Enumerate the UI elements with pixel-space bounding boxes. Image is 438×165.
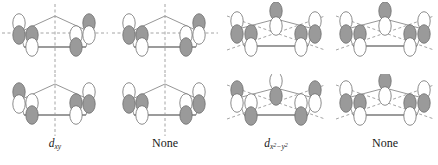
p-orbital-left-inner-1-bottom [26, 94, 38, 125]
figure-column-3: dx2−y2 [221, 0, 331, 165]
p-orbital-right-inner-3-top [295, 25, 307, 57]
column-4-caption: None [330, 136, 438, 150]
orbital-diagram-1-top [0, 2, 110, 74]
panel-2-top [110, 2, 220, 74]
figure-column-1: dxy [0, 0, 110, 165]
p-orbital-right-outer-1-top [83, 14, 95, 45]
panel-3-top [221, 2, 331, 74]
figure-column-4: None [330, 0, 438, 165]
p-orbital-apex-3-bottom [270, 74, 282, 105]
column-2-caption: None [110, 136, 220, 150]
p-orbital-left-outer-2-top [123, 14, 135, 45]
p-orbital-right-outer-4-top [418, 12, 430, 44]
p-orbital-left-outer-4-top [340, 12, 352, 44]
p-orbital-left-outer-3-bottom [231, 81, 243, 113]
p-orbital-right-outer-4-bottom [418, 81, 430, 113]
p-orbital-left-inner-2-bottom [136, 94, 148, 125]
p-orbital-left-inner-4-top [354, 25, 366, 57]
p-orbital-left-inner-3-top [245, 25, 257, 57]
p-orbital-right-inner-1-bottom [70, 94, 82, 125]
p-orbital-left-inner-3-bottom [245, 94, 257, 126]
p-orbital-right-outer-2-top [193, 14, 205, 45]
p-orbital-left-outer-1-top [13, 14, 25, 45]
p-orbital-apex-3-top [270, 2, 282, 35]
p-orbital-right-inner-1-top [70, 26, 82, 57]
p-orbital-right-inner-3-bottom [295, 94, 307, 126]
p-orbital-right-inner-2-bottom [180, 94, 192, 125]
p-orbital-right-inner-4-top [404, 25, 416, 57]
column-1-caption: dxy [0, 136, 110, 154]
orbital-diagram-3-top [221, 2, 331, 74]
p-orbital-left-outer-1-bottom [13, 83, 25, 114]
p-orbital-right-outer-1-bottom [83, 83, 95, 114]
p-orbital-left-inner-2-top [136, 26, 148, 57]
p-orbital-right-inner-2-top [180, 26, 192, 57]
p-orbital-right-outer-3-bottom [309, 81, 321, 113]
orbital-symmetry-figure: dxy [0, 0, 438, 165]
p-orbital-left-outer-2-bottom [123, 83, 135, 114]
orbital-diagram-4-top [330, 2, 438, 74]
column-3-caption: dx2−y2 [221, 136, 331, 154]
panel-4-top [330, 2, 438, 74]
p-orbital-left-inner-4-bottom [354, 94, 366, 126]
figure-column-2: None [110, 0, 220, 165]
p-orbital-right-outer-3-top [309, 12, 321, 44]
p-orbital-right-outer-2-bottom [193, 83, 205, 114]
p-orbital-left-outer-4-bottom [340, 81, 352, 113]
orbital-diagram-2-top [110, 2, 220, 74]
p-orbital-apex-4-bottom [379, 74, 391, 105]
p-orbital-left-outer-3-top [231, 12, 243, 44]
column-1-caption-subscript: xy [55, 142, 62, 151]
p-orbital-left-inner-1-top [26, 26, 38, 57]
p-orbital-right-inner-4-bottom [404, 94, 416, 126]
column-3-sub-exp2: 2 [285, 142, 288, 148]
p-orbital-apex-4-top [379, 2, 391, 35]
panel-1-top [0, 2, 110, 74]
column-3-caption-subscript: x2−y2 [270, 142, 288, 151]
